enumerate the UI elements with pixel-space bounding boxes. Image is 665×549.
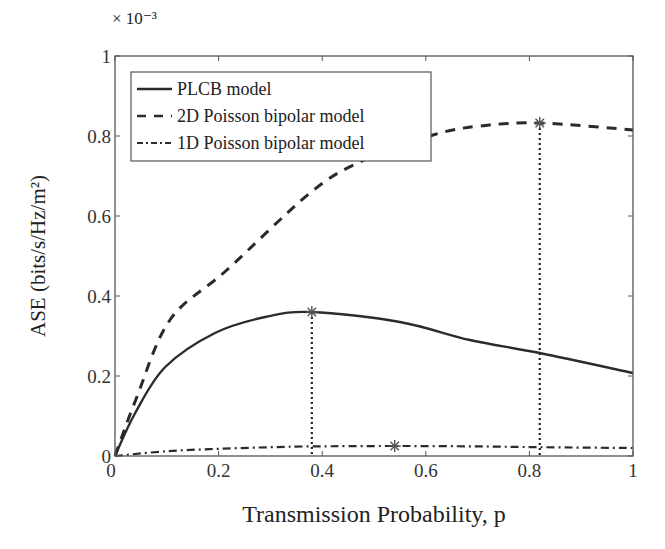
y-tick-label: 0.2 [87,366,111,387]
x-axis-label: Transmission Probability, p [242,501,506,527]
series-line-3 [115,446,633,456]
star-marker-icon [389,440,401,452]
legend-label: PLCB model [177,79,272,99]
x-tick-label: 0.8 [518,460,542,481]
series-line-2 [115,123,633,456]
legend: PLCB model 2D Poisson bipolar model 1D P… [131,72,431,161]
star-marker-icon [306,306,318,318]
x-tick-label: 0.4 [310,460,334,481]
y-tick-label: 0.8 [87,126,111,147]
plot-area [115,117,633,456]
star-marker-icon [534,117,546,129]
x-tick-label: 0.6 [414,460,438,481]
y-axis-multiplier: × 10⁻³ [112,9,157,28]
legend-label: 1D Poisson bipolar model [177,133,365,153]
y-axis-label: ASE (bits/s/Hz/m²) [26,175,50,337]
ase-vs-transmission-probability-chart: 00.20.40.60.8100.20.40.60.81 × 10⁻³ ASE … [0,0,665,549]
legend-label: 2D Poisson bipolar model [177,106,365,126]
y-tick-label: 0.6 [87,206,111,227]
y-tick-label: 1 [102,46,112,67]
y-tick-label: 0 [102,446,112,467]
series-line-1 [115,312,633,456]
x-tick-label: 1 [628,460,638,481]
x-tick-label: 0.2 [207,460,231,481]
y-tick-label: 0.4 [87,286,111,307]
